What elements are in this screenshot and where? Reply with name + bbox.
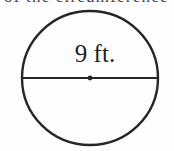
figure-canvas: of the circumference 9 ft. (0, 0, 174, 151)
circle-diagram: 9 ft. (0, 0, 174, 151)
diameter-measure-label: 9 ft. (75, 40, 115, 67)
center-point-dot (88, 76, 93, 81)
